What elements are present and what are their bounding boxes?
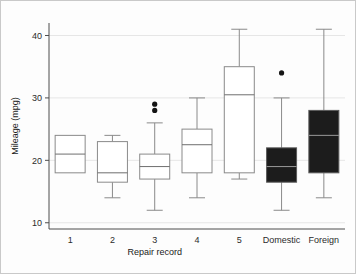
y-tick-label-40: 40 [32, 31, 42, 41]
box-domestic-outlier-1 [279, 70, 284, 75]
y-axis-title: Mileage (mpg) [10, 97, 20, 155]
box-2-rect [97, 142, 127, 183]
chart-stage: 10203040Mileage (mpg)12345DomesticForeig… [1, 1, 356, 274]
x-tick-label-2: 2 [110, 235, 115, 245]
figure-frame: 10203040Mileage (mpg)12345DomesticForeig… [0, 0, 356, 274]
x-tick-label-foreign: Foreign [309, 235, 340, 245]
x-tick-label-domestic: Domestic [263, 235, 301, 245]
y-tick-label-20: 20 [32, 156, 42, 166]
box-domestic-rect [267, 148, 297, 182]
y-tick-label-30: 30 [32, 93, 42, 103]
box-4-rect [182, 129, 212, 173]
box-3-outlier-1 [152, 108, 157, 113]
boxplot-svg: 10203040Mileage (mpg)12345DomesticForeig… [1, 1, 356, 274]
box-3-outlier-2 [152, 102, 157, 107]
box-5-rect [224, 67, 254, 173]
x-tick-label-1: 1 [68, 235, 73, 245]
x-tick-label-3: 3 [152, 235, 157, 245]
x-tick-label-5: 5 [237, 235, 242, 245]
x-axis-title: Repair record [127, 247, 182, 257]
box-foreign-rect [309, 110, 339, 172]
x-tick-label-4: 4 [194, 235, 199, 245]
y-tick-label-10: 10 [32, 218, 42, 228]
